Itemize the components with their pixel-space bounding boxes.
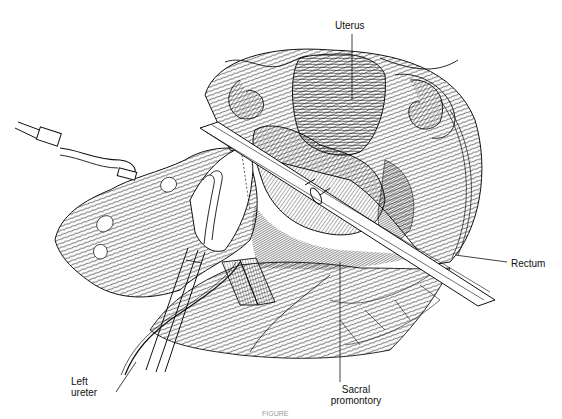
label-uterus: Uterus — [335, 20, 364, 31]
label-sacral-promontory: Sacral promontory — [322, 384, 390, 406]
surgical-illustration — [0, 0, 562, 419]
label-rectum: Rectum — [511, 258, 545, 269]
label-ureter-line2: ureter — [71, 387, 97, 398]
figure-caption-cropped: FIGURE — [262, 410, 332, 416]
label-ureter-line1: Left — [71, 376, 97, 387]
label-sacral-line2: promontory — [322, 395, 390, 406]
label-left-ureter: Left ureter — [71, 376, 97, 398]
label-sacral-line1: Sacral — [322, 384, 390, 395]
grasper-instrument-left — [15, 122, 137, 180]
illustration-figure: Uterus Rectum Sacral promontory Left ure… — [0, 0, 562, 419]
